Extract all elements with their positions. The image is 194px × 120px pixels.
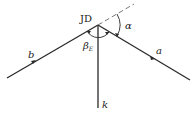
- beta-subscript: E: [89, 45, 93, 52]
- line-a-label: a: [156, 46, 162, 56]
- angle-diagram: [0, 0, 194, 120]
- vertex-label: JD: [80, 14, 92, 24]
- alpha-label: α: [125, 21, 132, 31]
- line-b-label: b: [28, 50, 34, 60]
- line-k-label: k: [102, 100, 108, 110]
- line-a: [98, 25, 190, 80]
- beta-e-label: βE: [83, 41, 93, 52]
- alpha-arc: [117, 14, 120, 36]
